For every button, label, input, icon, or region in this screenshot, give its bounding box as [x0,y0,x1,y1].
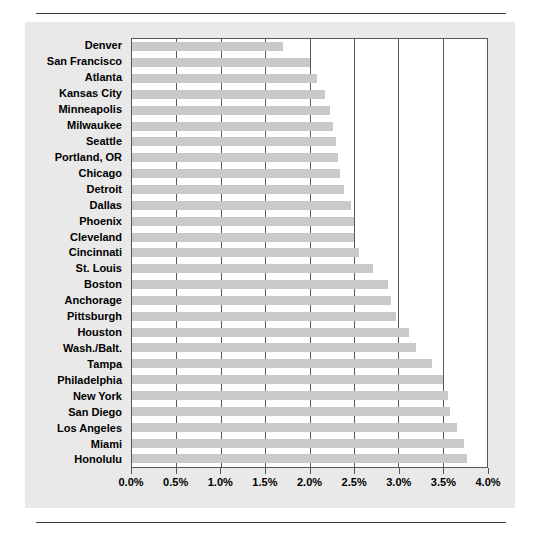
bar [132,423,457,432]
bar [132,42,283,51]
y-axis-label: Portland, OR [25,153,127,162]
top-divider-rule [36,13,506,14]
bar [132,264,373,273]
bar [132,185,344,194]
x-axis-tick [265,468,266,474]
bottom-divider-rule [36,522,506,523]
bar-chart: DenverSan FranciscoAtlantaKansas CityMin… [25,22,515,508]
figure-panel: DenverSan FranciscoAtlantaKansas CityMin… [25,22,515,508]
x-axis-tick [310,468,311,474]
x-axis-tick [443,468,444,474]
bar-row [132,90,487,99]
bar-row [132,122,487,131]
x-axis-tick-label: 2.0% [297,476,322,488]
bar-row [132,58,487,67]
x-axis-tick-label: 0.0% [118,476,143,488]
bar-row [132,233,487,242]
bar-row [132,217,487,226]
bar-row [132,359,487,368]
bar-row [132,74,487,83]
x-axis-tick [220,468,221,474]
y-axis-label: Seattle [25,137,127,146]
bar [132,58,310,67]
y-axis-label: Miami [25,440,127,449]
bar [132,217,354,226]
plot-area [131,38,488,468]
y-axis-label: San Diego [25,408,127,417]
y-axis-label: Chicago [25,169,127,178]
bar [132,328,409,337]
bar [132,137,336,146]
bar [132,106,330,115]
bar [132,233,354,242]
bar [132,201,351,210]
bar-row [132,328,487,337]
y-axis-category-labels: DenverSan FranciscoAtlantaKansas CityMin… [25,38,127,468]
bar [132,391,448,400]
bar [132,169,340,178]
y-axis-label: St. Louis [25,264,127,273]
y-axis-label: Wash./Balt. [25,344,127,353]
bar-row [132,169,487,178]
bar [132,74,317,83]
x-axis-tick [399,468,400,474]
y-axis-label: Detroit [25,185,127,194]
bar [132,454,467,463]
bar-row [132,439,487,448]
y-axis-label: Phoenix [25,217,127,226]
bar-row [132,296,487,305]
screenshot-page: DenverSan FranciscoAtlantaKansas CityMin… [0,0,540,533]
x-axis-tick-label: 4.0% [475,476,500,488]
y-axis-label: Anchorage [25,296,127,305]
bar [132,153,338,162]
y-axis-label: San Francisco [25,57,127,66]
x-axis-tick [131,468,132,474]
y-axis-label: Milwaukee [25,121,127,130]
bar [132,248,359,257]
bar-row [132,407,487,416]
bar-row [132,137,487,146]
bar-row [132,423,487,432]
y-axis-label: New York [25,392,127,401]
bar [132,375,443,384]
bar-row [132,280,487,289]
bar-row [132,264,487,273]
bar-row [132,391,487,400]
bar-rows [132,39,487,467]
bar-row [132,42,487,51]
y-axis-label: Cleveland [25,233,127,242]
x-axis-tick-label: 2.5% [342,476,367,488]
x-axis-tick [176,468,177,474]
bar [132,312,396,321]
bar-row [132,248,487,257]
bar [132,90,325,99]
bar [132,343,416,352]
x-axis-tick-label: 1.0% [208,476,233,488]
y-axis-label: Dallas [25,201,127,210]
y-axis-label: Pittsburgh [25,312,127,321]
y-axis-label: Houston [25,328,127,337]
bar [132,359,432,368]
y-axis-label: Honolulu [25,455,127,464]
bar-row [132,312,487,321]
bar-row [132,454,487,463]
y-axis-label: Minneapolis [25,105,127,114]
bar [132,296,391,305]
x-axis-tick-label: 3.0% [386,476,411,488]
bar-row [132,201,487,210]
bar [132,439,464,448]
bar-row [132,153,487,162]
y-axis-label: Cincinnati [25,248,127,257]
bar [132,407,450,416]
bar-row [132,343,487,352]
bar [132,280,388,289]
x-axis-tick [488,468,489,474]
x-axis-ticks [131,468,488,474]
bar-row [132,106,487,115]
y-axis-label: Boston [25,280,127,289]
x-axis-tick [354,468,355,474]
y-axis-label: Atlanta [25,73,127,82]
x-axis-tick-label: 0.5% [163,476,188,488]
bar-row [132,185,487,194]
y-axis-label: Denver [25,41,127,50]
